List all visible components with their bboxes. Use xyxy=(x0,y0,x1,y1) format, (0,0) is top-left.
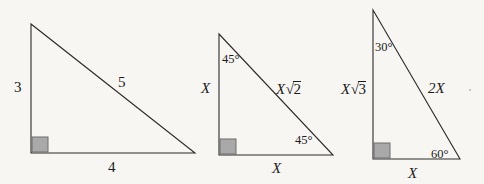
triangle-2-top-angle-label: 45° xyxy=(222,53,240,66)
triangle-1-base-label: 4 xyxy=(108,160,116,175)
triangle-3-vertical-label: X√3 xyxy=(341,81,366,98)
right-angle-marker-triangle-1 xyxy=(32,137,48,152)
triangle-3-hypotenuse-label: 2X xyxy=(428,81,445,96)
triangle-2-hyp-radicand: 2 xyxy=(293,81,302,98)
square-root-icon: √3 xyxy=(350,81,366,98)
right-angle-marker-triangle-3 xyxy=(374,143,390,158)
triangle-2-base-label: X xyxy=(272,161,281,176)
triangle-30-60-90-outline xyxy=(373,10,460,159)
triangles-svg xyxy=(0,0,484,184)
triangle-2-bottom-right-angle-label: 45° xyxy=(295,134,313,147)
square-root-icon: √2 xyxy=(285,81,301,98)
triangle-2-vertical-label: X xyxy=(201,81,210,96)
right-triangles-figure: 3 5 4 45° X X√2 45° X 30° X√3 2X 60° X xyxy=(0,0,484,184)
triangle-3-top-angle-label: 30° xyxy=(375,41,393,54)
triangle-1-hypotenuse-label: 5 xyxy=(118,75,126,90)
triangle-3-base-label: X xyxy=(408,166,417,181)
triangle-3-vert-coefficient: X xyxy=(341,81,350,97)
triangle-3-vert-radicand: 3 xyxy=(358,81,367,98)
triangle-3-bottom-right-angle-label: 60° xyxy=(431,148,449,161)
triangle-3-4-5-outline xyxy=(31,24,195,153)
triangle-30-60-90-shape xyxy=(373,10,460,159)
page-speck xyxy=(469,89,471,91)
right-angle-marker-triangle-2 xyxy=(220,139,236,154)
triangle-2-hypotenuse-label: X√2 xyxy=(276,81,301,98)
triangle-2-hyp-coefficient: X xyxy=(276,81,285,97)
triangle-3-4-5-shape xyxy=(31,24,195,153)
triangle-1-vertical-label: 3 xyxy=(14,80,22,95)
